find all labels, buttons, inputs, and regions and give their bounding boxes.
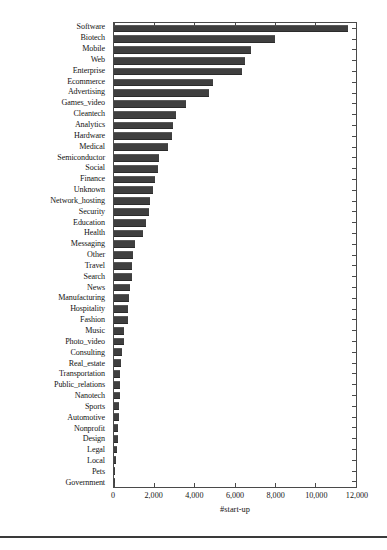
category-label: Social [4,163,109,174]
bar [114,262,132,270]
category-tick [352,330,356,331]
x-tick-label: 8,000 [267,492,285,500]
category-label: Other [4,250,109,261]
bar-row [114,444,356,455]
bar [114,100,186,108]
category-tick [352,49,356,50]
category-label: Health [4,228,109,239]
category-label: Nonprofit [4,423,109,434]
category-tick [352,319,356,320]
bar-row [114,304,356,315]
category-label: Cleantech [4,109,109,120]
category-tick [352,406,356,407]
bar [114,89,209,97]
figure-container: SoftwareBiotechMobileWebEnterpriseEcomme… [0,0,387,550]
bar-row [114,109,356,120]
category-tick [352,309,356,310]
category-tick [352,255,356,256]
category-tick [352,427,356,428]
category-tick [352,460,356,461]
bar [114,381,120,389]
x-axis-title: #start-up [113,506,357,514]
plot-frame [113,22,357,488]
category-tick [352,125,356,126]
bar [114,284,130,292]
bar-row [114,45,356,56]
bar [114,57,245,65]
bar [114,197,150,205]
category-tick [352,136,356,137]
x-tick-label: 0 [111,492,115,500]
bar-row [114,455,356,466]
bar-row [114,466,356,477]
bar-row [114,412,356,423]
footer-caption [0,541,387,550]
bar [114,348,122,356]
x-tick-bottom [154,483,155,487]
category-label: Education [4,217,109,228]
bar-row [114,88,356,99]
x-tick-bottom [356,483,357,487]
category-label: Legal [4,445,109,456]
category-tick [352,60,356,61]
category-label: Government [4,477,109,488]
category-tick [352,298,356,299]
bar [114,413,119,421]
bar-row [114,325,356,336]
bar-row [114,77,356,88]
bar [114,132,172,140]
category-label: Music [4,326,109,337]
x-tick-top [114,23,115,27]
bar [114,165,158,173]
x-axis-tick-labels: 02,0004,0006,0008,00010,00012,000 [113,492,357,504]
category-label: Hospitality [4,304,109,315]
bar [114,46,251,54]
category-tick [352,157,356,158]
bar-row [114,379,356,390]
category-tick [352,471,356,472]
category-tick [352,395,356,396]
category-label: Security [4,206,109,217]
category-tick [352,276,356,277]
bar-chart: SoftwareBiotechMobileWebEnterpriseEcomme… [0,0,387,516]
category-tick [352,265,356,266]
category-tick [352,82,356,83]
x-tick-label: 2,000 [145,492,163,500]
bar-row [114,217,356,228]
bar [114,456,116,464]
bar [114,79,213,87]
bar-series [114,23,356,487]
bar [114,122,173,130]
bar [114,392,120,400]
x-tick-bottom [114,483,115,487]
category-tick [352,449,356,450]
bar [114,305,128,313]
bar [114,143,168,151]
category-tick [352,211,356,212]
category-label: Travel [4,261,109,272]
category-label: Software [4,22,109,33]
bar [114,154,159,162]
bar-row [114,34,356,45]
bar [114,359,121,367]
category-tick [352,179,356,180]
bar-row [114,358,356,369]
category-label: Design [4,434,109,445]
bar-row [114,315,356,326]
category-label: Web [4,55,109,66]
category-label: Public_relations [4,380,109,391]
bar-row [114,282,356,293]
x-tick-top [154,23,155,27]
category-label: Games_video [4,98,109,109]
category-tick [352,233,356,234]
category-label: Enterprise [4,65,109,76]
x-tick-label: 6,000 [226,492,244,500]
bar [114,338,124,346]
bar-row [114,142,356,153]
category-tick [352,93,356,94]
category-label: Real_estate [4,358,109,369]
bar-row [114,55,356,66]
bar-row [114,390,356,401]
category-label: Advertising [4,87,109,98]
category-label: Hardware [4,130,109,141]
